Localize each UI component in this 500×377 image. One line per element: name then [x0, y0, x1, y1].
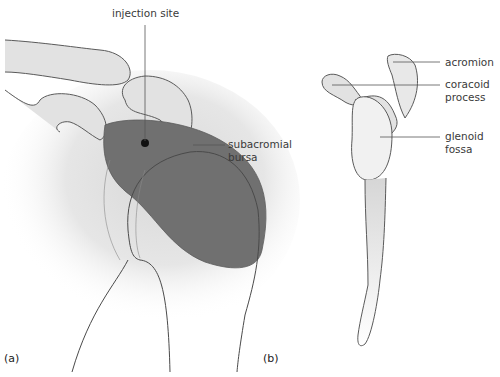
label-subacromial-bursa: subacromial bursa — [228, 138, 292, 164]
shoulder-illustration — [0, 25, 300, 372]
diagram-canvas — [0, 0, 500, 377]
label-coracoid-process: coracoid process — [445, 78, 490, 104]
scapula-illustration — [322, 54, 440, 345]
panel-label-a: (a) — [4, 352, 19, 365]
label-acromion: acromion — [445, 56, 494, 69]
panel-label-b: (b) — [263, 352, 279, 365]
label-glenoid-fossa: glenoid fossa — [445, 130, 484, 156]
label-injection-site: injection site — [112, 7, 179, 20]
